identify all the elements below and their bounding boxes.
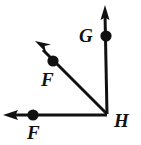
ray-hg-vertical xyxy=(100,5,111,114)
point-label-g: G xyxy=(79,26,93,45)
point-label-h: H xyxy=(114,111,129,130)
point-f-diagonal-dot xyxy=(47,55,58,66)
point-g-dot xyxy=(100,30,111,41)
point-f-horizontal-dot xyxy=(27,109,38,120)
point-label-f-diagonal: F xyxy=(41,70,54,89)
point-label-f-horizontal: F xyxy=(27,123,40,142)
ray-hf-horizontal xyxy=(3,109,107,120)
geometry-figure: G H F F xyxy=(0,0,141,145)
ray-hg-line xyxy=(105,14,107,114)
